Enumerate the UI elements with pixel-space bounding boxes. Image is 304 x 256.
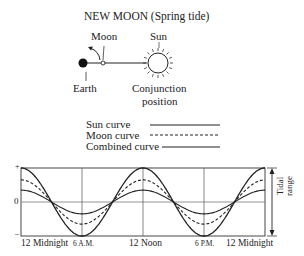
x-tick-6pm: 6 P.M. — [195, 240, 214, 248]
y-axis-minus: – — [15, 230, 19, 238]
y-axis-plus: + — [15, 163, 20, 171]
x-tick-midnight-start: 12 Midnight — [21, 239, 68, 249]
legend-combined-label: Combined curve — [86, 141, 159, 152]
x-tick-6am: 6 A.M. — [73, 240, 94, 248]
tidal-range-label-line2: range — [285, 176, 294, 196]
tidal-range-label: Tidal range — [276, 176, 294, 196]
tide-chart — [21, 168, 277, 236]
moon-pointer — [103, 46, 104, 60]
sun-icon — [143, 48, 173, 78]
x-tick-midnight-end: 12 Midnight — [226, 239, 273, 249]
orbit-direction-arrow-icon — [90, 48, 100, 60]
moon-icon — [101, 61, 105, 65]
y-axis-zero: 0 — [14, 197, 19, 206]
earth-icon — [79, 59, 88, 68]
x-tick-noon: 12 Noon — [129, 239, 162, 249]
orbit-diagram-graphic — [0, 0, 304, 256]
